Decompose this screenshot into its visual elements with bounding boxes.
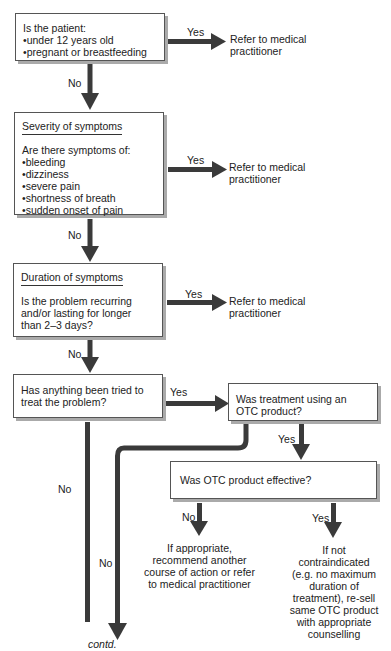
q6-text: Was OTC product effective? <box>180 474 369 486</box>
q2-item: shortness of breath <box>22 192 156 204</box>
q3-no-label: No <box>68 348 81 360</box>
question-duration-box: Duration of symptoms Is the problem recu… <box>13 263 163 337</box>
q1-no-label: No <box>68 77 81 89</box>
q2-item: severe pain <box>22 180 156 192</box>
q3-text: Is the problem recurring and/or lasting … <box>21 295 151 331</box>
q1-item: under 12 years old <box>23 34 157 46</box>
q2-item: sudden onset of pain <box>22 204 156 216</box>
question-tried-treatment-box: Has anything been tried to treat the pro… <box>13 374 163 418</box>
q2-title: Are there symptoms of: <box>22 144 156 156</box>
q1-title: Is the patient: <box>23 22 157 34</box>
q4-no-label: No <box>58 483 71 495</box>
q2-item: dizziness <box>22 168 156 180</box>
q1-yes-outcome: Refer to medical practitioner <box>230 33 330 57</box>
q2-heading: Severity of symptoms <box>22 120 122 135</box>
q6-yes-outcome: If not contraindicated (e.g. no maximum … <box>288 544 380 640</box>
question-otc-effective-box: Was OTC product effective? <box>170 461 377 499</box>
q2-yes-outcome: Refer to medical practitioner <box>229 161 329 185</box>
q1-item: pregnant or breastfeeding <box>23 46 157 58</box>
q2-yes-label: Yes <box>187 154 204 166</box>
q5-text: Was treatment using an OTC product? <box>236 393 361 417</box>
q3-yes-label: Yes <box>185 288 202 300</box>
q5-yes-label: Yes <box>278 433 295 445</box>
q2-list: bleeding dizziness severe pain shortness… <box>22 156 156 216</box>
q1-yes-label: Yes <box>187 26 204 38</box>
question-patient-box: Is the patient: under 12 years old pregn… <box>15 13 165 61</box>
q4-text: Has anything been tried to treat the pro… <box>21 384 156 408</box>
q6-no-outcome: If appropriate, recommend another course… <box>142 542 257 590</box>
question-otc-product-box: Was treatment using an OTC product? <box>228 383 378 421</box>
q2-no-label: No <box>68 229 81 241</box>
q5-no-label: No <box>99 557 112 569</box>
question-severity-box: Severity of symptoms Are there symptoms … <box>14 112 164 215</box>
q2-item: bleeding <box>22 156 156 168</box>
q4-yes-label: Yes <box>170 386 187 398</box>
q3-yes-outcome: Refer to medical practitioner <box>229 295 329 319</box>
q3-heading: Duration of symptoms <box>21 271 123 286</box>
continuation-label: contd. <box>88 638 117 650</box>
q6-yes-label: Yes <box>312 512 329 524</box>
q6-no-label: No <box>182 511 195 523</box>
q1-list: under 12 years old pregnant or breastfee… <box>23 34 157 58</box>
